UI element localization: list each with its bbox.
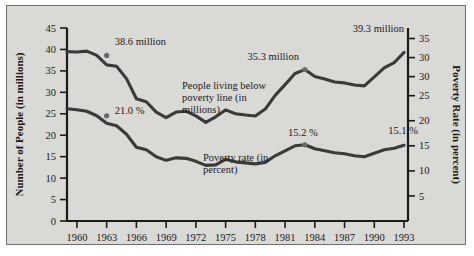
x-axis-tick-label: 1978 xyxy=(245,232,266,243)
left-axis-tick-label: 20 xyxy=(46,130,57,141)
data-annotation-label: 39.3 million xyxy=(353,23,405,34)
x-axis-tick-label: 1975 xyxy=(215,232,236,243)
right-axis-tick-label: 5 xyxy=(419,191,424,202)
x-axis-tick-label: 1984 xyxy=(304,232,326,243)
right-axis-title: Poverty Rate (in percent) xyxy=(450,65,463,184)
series-label-people-below-poverty: People living below xyxy=(182,80,266,91)
data-annotation-label: 35.3 million xyxy=(248,51,300,62)
data-point-marker xyxy=(302,67,307,72)
right-axis-tick-label: 30 xyxy=(419,52,430,63)
left-axis-tick-label: 45 xyxy=(46,23,57,34)
data-annotation-label: 15.1 % xyxy=(388,125,418,136)
x-axis-tick-label: 1966 xyxy=(126,232,147,243)
series-label-people-below-poverty: millions) xyxy=(182,104,220,116)
chart-plot-area: 0510152025303540455101520253030351960196… xyxy=(7,6,465,244)
left-axis-tick-label: 10 xyxy=(46,173,57,184)
left-axis-tick-label: 0 xyxy=(51,216,56,227)
data-annotation-label: 38.6 million xyxy=(115,36,167,47)
left-axis-tick-label: 30 xyxy=(46,87,57,98)
right-axis-tick-label: 30 xyxy=(419,71,430,82)
left-axis-tick-label: 25 xyxy=(46,108,57,119)
x-axis-tick-label: 1963 xyxy=(96,232,117,243)
poverty-chart-figure: 0510152025303540455101520253030351960196… xyxy=(0,0,474,256)
x-axis-tick-label: 1993 xyxy=(394,232,415,243)
x-axis-tick-label: 1972 xyxy=(185,232,206,243)
x-axis-tick-label: 1987 xyxy=(334,232,355,243)
left-axis-title: Number of People (in millions) xyxy=(13,52,26,196)
series-label-people-below-poverty: poverty line (in xyxy=(182,92,247,104)
x-axis-tick-label: 1990 xyxy=(364,232,385,243)
left-and-bottom-axis-spine xyxy=(67,28,408,221)
data-point-marker xyxy=(302,142,307,147)
left-axis-tick-label: 15 xyxy=(46,151,57,162)
right-axis-tick-label: 35 xyxy=(419,33,430,44)
data-point-marker xyxy=(104,53,109,58)
right-axis-tick-label: 25 xyxy=(419,90,430,101)
left-axis-tick-label: 5 xyxy=(51,194,56,205)
right-axis-tick-label: 20 xyxy=(419,115,430,126)
left-axis-tick-label: 40 xyxy=(46,44,57,55)
data-annotation-label: 15.2 % xyxy=(288,127,318,138)
series-label-poverty-rate: percent) xyxy=(203,164,238,176)
right-axis-tick-label: 15 xyxy=(419,140,430,151)
x-axis-tick-label: 1960 xyxy=(66,232,87,243)
right-axis-tick-label: 10 xyxy=(419,165,430,176)
left-axis-tick-label: 35 xyxy=(46,65,57,76)
data-annotation-label: 21.0 % xyxy=(115,105,145,116)
data-point-marker xyxy=(104,113,109,118)
series-label-poverty-rate: Poverty rate (in xyxy=(203,152,269,164)
x-axis-tick-label: 1981 xyxy=(275,232,296,243)
chart-panel: 0510152025303540455101520253030351960196… xyxy=(6,5,466,245)
x-axis-tick-label: 1969 xyxy=(156,232,177,243)
